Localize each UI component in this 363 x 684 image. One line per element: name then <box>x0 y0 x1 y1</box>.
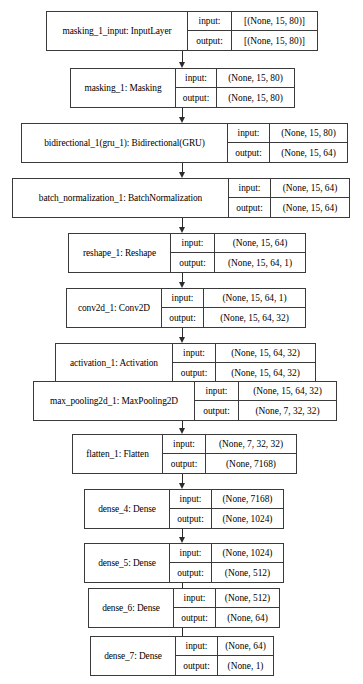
layer-io-table-max_pooling2d_1: input:(None, 15, 64, 32)output:(None, 7,… <box>195 382 336 420</box>
layer-input-row-reshape_1: input:(None, 15, 64) <box>171 234 305 253</box>
layer-io-table-dense_5: input:(None, 1024)output:(None, 512) <box>170 544 283 582</box>
layer-output-label: output: <box>162 308 204 327</box>
layer-input-row-dense_7: input:(None, 64) <box>176 637 273 656</box>
layer-input-row-batch_normalization_1: input:(None, 15, 64) <box>229 179 349 198</box>
layer-node-max_pooling2d_1: max_pooling2d_1: MaxPooling2Dinput:(None… <box>33 381 337 421</box>
layer-output-shape-dense_4: (None, 1024) <box>212 509 283 528</box>
model-architecture-diagram: masking_1_input: InputLayerinput:[(None,… <box>0 0 363 684</box>
layer-input-row-bidirectional_1: input:(None, 15, 80) <box>228 124 347 143</box>
layer-name-dense_4: dense_4: Dense <box>85 490 170 528</box>
layer-input-shape-max_pooling2d_1: (None, 15, 64, 32) <box>239 382 336 400</box>
layer-node-batch_normalization_1: batch_normalization_1: BatchNormalizatio… <box>12 178 350 218</box>
layer-output-label: output: <box>195 401 239 420</box>
layer-input-label: input: <box>174 589 216 607</box>
layer-output-shape-batch_normalization_1: (None, 15, 64) <box>271 198 349 217</box>
layer-output-row-dense_5: output:(None, 512) <box>170 563 283 582</box>
layer-input-label: input: <box>176 637 218 655</box>
layer-input-shape-dense_4: (None, 7168) <box>212 490 283 508</box>
layer-output-row-reshape_1: output:(None, 15, 64, 1) <box>171 253 305 272</box>
layer-input-label: input: <box>162 289 204 307</box>
layer-output-shape-dense_7: (None, 1) <box>218 656 273 675</box>
layer-input-label: input: <box>195 382 239 400</box>
layer-input-label: input: <box>173 344 216 362</box>
layer-node-masking_1_input: masking_1_input: InputLayerinput:[(None,… <box>46 11 318 51</box>
layer-input-shape-dense_6: (None, 512) <box>216 589 279 607</box>
layer-name-flatten_1: flatten_1: Flatten <box>73 435 163 473</box>
layer-io-table-conv2d_1: input:(None, 15, 64, 1)output:(None, 15,… <box>162 289 305 327</box>
layer-output-shape-activation_1: (None, 15, 64, 32) <box>216 363 315 382</box>
layer-input-row-masking_1: input:(None, 15, 80) <box>176 69 294 88</box>
layer-node-activation_1: activation_1: Activationinput:(None, 15,… <box>55 343 316 383</box>
layer-io-table-flatten_1: input:(None, 7, 32, 32)output:(None, 716… <box>163 435 296 473</box>
layer-output-label: output: <box>229 198 271 217</box>
layer-input-label: input: <box>228 124 270 142</box>
layer-input-label: input: <box>170 544 212 562</box>
layer-node-masking_1: masking_1: Maskinginput:(None, 15, 80)ou… <box>70 68 295 108</box>
layer-node-dense_6: dense_6: Denseinput:(None, 512)output:(N… <box>88 588 280 628</box>
layer-io-table-dense_7: input:(None, 64)output:(None, 1) <box>176 637 273 675</box>
layer-output-label: output: <box>170 563 212 582</box>
layer-output-shape-masking_1_input: [(None, 15, 80)] <box>232 31 317 50</box>
layer-input-shape-bidirectional_1: (None, 15, 80) <box>270 124 347 142</box>
layer-name-dense_7: dense_7: Dense <box>91 637 176 675</box>
layer-output-row-activation_1: output:(None, 15, 64, 32) <box>173 363 315 382</box>
layer-input-label: input: <box>176 69 217 87</box>
layer-input-shape-reshape_1: (None, 15, 64) <box>215 234 305 252</box>
layer-output-label: output: <box>228 143 270 162</box>
layer-output-label: output: <box>188 31 232 50</box>
layer-output-row-masking_1_input: output:[(None, 15, 80)] <box>188 31 317 50</box>
layer-io-table-activation_1: input:(None, 15, 64, 32)output:(None, 15… <box>173 344 315 382</box>
layer-output-row-max_pooling2d_1: output:(None, 7, 32, 32) <box>195 401 336 420</box>
layer-output-shape-dense_5: (None, 512) <box>212 563 283 582</box>
layer-name-reshape_1: reshape_1: Reshape <box>69 234 171 272</box>
layer-input-shape-masking_1_input: [(None, 15, 80)] <box>232 12 317 30</box>
layer-output-shape-dense_6: (None, 64) <box>216 608 279 627</box>
layer-output-row-masking_1: output:(None, 15, 80) <box>176 88 294 107</box>
layer-output-row-conv2d_1: output:(None, 15, 64, 32) <box>162 308 305 327</box>
layer-name-bidirectional_1: bidirectional_1(gru_1): Bidirectional(GR… <box>22 124 228 162</box>
layer-input-label: input: <box>171 234 215 252</box>
layer-name-masking_1: masking_1: Masking <box>71 69 176 107</box>
layer-output-label: output: <box>163 454 206 473</box>
layer-output-shape-reshape_1: (None, 15, 64, 1) <box>215 253 305 272</box>
layer-node-flatten_1: flatten_1: Flatteninput:(None, 7, 32, 32… <box>72 434 297 474</box>
layer-output-label: output: <box>171 253 215 272</box>
layer-name-dense_6: dense_6: Dense <box>89 589 174 627</box>
layer-input-row-flatten_1: input:(None, 7, 32, 32) <box>163 435 296 454</box>
layer-output-row-dense_6: output:(None, 64) <box>174 608 279 627</box>
layer-io-table-masking_1_input: input:[(None, 15, 80)]output:[(None, 15,… <box>188 12 317 50</box>
layer-input-shape-masking_1: (None, 15, 80) <box>217 69 294 87</box>
layer-node-dense_5: dense_5: Denseinput:(None, 1024)output:(… <box>84 543 284 583</box>
layer-input-row-dense_6: input:(None, 512) <box>174 589 279 608</box>
layer-node-reshape_1: reshape_1: Reshapeinput:(None, 15, 64)ou… <box>68 233 306 273</box>
layer-input-row-masking_1_input: input:[(None, 15, 80)] <box>188 12 317 31</box>
layer-name-dense_5: dense_5: Dense <box>85 544 170 582</box>
layer-input-shape-activation_1: (None, 15, 64, 32) <box>216 344 315 362</box>
layer-input-row-dense_4: input:(None, 7168) <box>170 490 283 509</box>
layer-output-row-bidirectional_1: output:(None, 15, 64) <box>228 143 347 162</box>
layer-input-shape-flatten_1: (None, 7, 32, 32) <box>206 435 296 453</box>
layer-io-table-bidirectional_1: input:(None, 15, 80)output:(None, 15, 64… <box>228 124 347 162</box>
layer-name-max_pooling2d_1: max_pooling2d_1: MaxPooling2D <box>34 382 195 420</box>
layer-io-table-dense_6: input:(None, 512)output:(None, 64) <box>174 589 279 627</box>
layer-input-label: input: <box>188 12 232 30</box>
layer-input-row-dense_5: input:(None, 1024) <box>170 544 283 563</box>
layer-output-label: output: <box>170 509 212 528</box>
layer-name-batch_normalization_1: batch_normalization_1: BatchNormalizatio… <box>13 179 229 217</box>
layer-io-table-masking_1: input:(None, 15, 80)output:(None, 15, 80… <box>176 69 294 107</box>
layer-input-shape-dense_7: (None, 64) <box>218 637 273 655</box>
layer-output-shape-flatten_1: (None, 7168) <box>206 454 296 473</box>
layer-output-row-dense_7: output:(None, 1) <box>176 656 273 675</box>
layer-node-dense_7: dense_7: Denseinput:(None, 64)output:(No… <box>90 636 274 676</box>
layer-node-conv2d_1: conv2d_1: Conv2Dinput:(None, 15, 64, 1)o… <box>66 288 306 328</box>
layer-name-conv2d_1: conv2d_1: Conv2D <box>67 289 162 327</box>
layer-input-label: input: <box>170 490 212 508</box>
layer-output-shape-masking_1: (None, 15, 80) <box>217 88 294 107</box>
layer-output-label: output: <box>176 88 217 107</box>
layer-output-row-batch_normalization_1: output:(None, 15, 64) <box>229 198 349 217</box>
layer-input-row-max_pooling2d_1: input:(None, 15, 64, 32) <box>195 382 336 401</box>
layer-io-table-reshape_1: input:(None, 15, 64)output:(None, 15, 64… <box>171 234 305 272</box>
layer-node-bidirectional_1: bidirectional_1(gru_1): Bidirectional(GR… <box>21 123 348 163</box>
layer-name-activation_1: activation_1: Activation <box>56 344 173 382</box>
layer-input-row-activation_1: input:(None, 15, 64, 32) <box>173 344 315 363</box>
